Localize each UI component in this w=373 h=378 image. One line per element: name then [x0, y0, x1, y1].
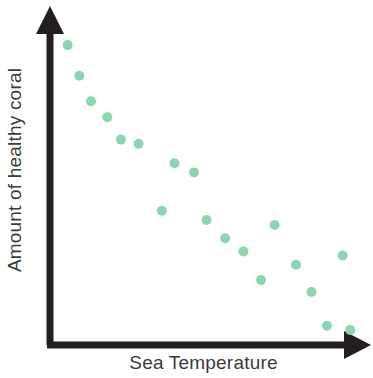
data-point [63, 40, 73, 50]
data-point [345, 325, 355, 335]
data-point [322, 321, 332, 331]
data-point [169, 158, 179, 168]
data-point [189, 167, 199, 177]
data-point [86, 96, 96, 106]
data-point [306, 287, 316, 297]
data-point [238, 246, 248, 256]
plot-canvas [0, 0, 373, 378]
data-point-group [63, 40, 356, 335]
data-point [220, 233, 230, 243]
y-axis-label-text: Amount of healthy coral [4, 68, 26, 272]
data-point [256, 275, 266, 285]
data-point [116, 135, 126, 145]
data-point [157, 206, 167, 216]
y-axis-label: Amount of healthy coral [0, 0, 30, 340]
data-point [74, 71, 84, 81]
data-point [102, 112, 112, 122]
data-point [202, 215, 212, 225]
x-axis-label: Sea Temperature [0, 352, 373, 374]
data-point [291, 260, 301, 270]
y-axis-arrow-icon [36, 6, 64, 34]
data-point [134, 139, 144, 149]
data-point [270, 220, 280, 230]
scatter-chart-figure: Amount of healthy coral Sea Temperature [0, 0, 373, 378]
data-point [338, 251, 348, 261]
